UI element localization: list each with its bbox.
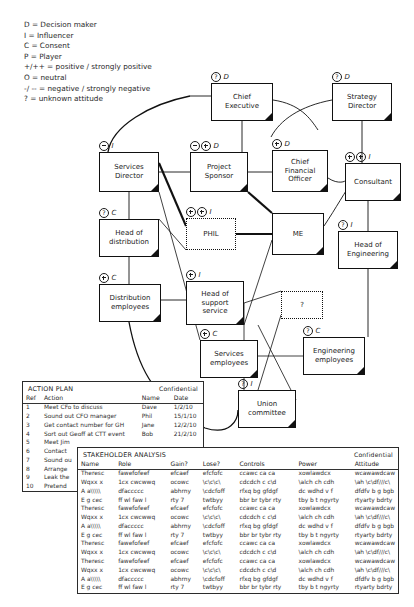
marker-role: D (224, 73, 229, 81)
node-label: Servicesemployees (208, 350, 250, 367)
table-cell: 10 (23, 483, 41, 492)
node-label: Consultant (352, 178, 394, 187)
marker-head-of-distribution: ?C (99, 208, 116, 218)
marker-role: D (214, 142, 219, 150)
table-row: Wqxx x1cx cwcwwqocowc\c\c\c\cdcdch c c\d… (78, 514, 398, 523)
table-cell: wcawawdcaw (352, 540, 398, 549)
node-head-of-support-service[interactable]: Head ofsupportservice (186, 281, 244, 325)
table-cell: efcaef (167, 540, 199, 549)
node-consultant[interactable]: Consultant (345, 163, 401, 201)
action-plan-col-3: Date (171, 394, 203, 403)
table-cell: ccawc ca ca (236, 505, 295, 514)
plus-circle-icon (272, 139, 282, 149)
marker-role: I (351, 221, 353, 229)
node-label: ServicesDirector (112, 163, 146, 180)
stakeholder-title: STAKEHOLDER ANALYSIS (83, 451, 166, 459)
table-row: 2Sound out CFO managerPhil15/1/10 (23, 412, 203, 421)
table-cell: dc wdhd v f (296, 522, 352, 531)
table-cell: \cdcfoff (200, 522, 237, 531)
node-services-employees[interactable]: Servicesemployees (200, 340, 258, 378)
table-cell: rty 7 (167, 496, 199, 505)
node-union-committee[interactable]: Unioncommittee (238, 390, 296, 428)
plus-circle-icon (186, 270, 196, 280)
question-circle-icon: ? (338, 220, 348, 230)
table-cell: \alch ch cdh (296, 549, 352, 558)
node-strategy-director[interactable]: StrategyDirector (332, 83, 392, 121)
table-row: Wqxx x1cx cwcwwqocowc\c\c\c\cdcdch c c\d… (78, 549, 398, 558)
node-services-director[interactable]: ServicesDirector (99, 152, 159, 192)
table-cell: efcfofc (200, 469, 237, 478)
node-distribution-employees[interactable]: Distributionemployees (99, 284, 161, 322)
table-row: Therescfawefofeefefcaefefcfofcccawc ca c… (78, 469, 398, 478)
table-cell: Wqxx x (78, 514, 115, 523)
table-cell: rtyarty bdrty (352, 584, 398, 593)
plus-circle-icon (197, 207, 207, 217)
table-cell: 1cx cwcwwq (115, 549, 167, 558)
table-cell: abhrny (167, 575, 199, 584)
marker-role: I (210, 208, 212, 216)
table-cell: xowlawdcx (296, 540, 352, 549)
table-cell: efcaef (167, 469, 199, 478)
action-plan-title: ACTION PLAN (28, 385, 73, 393)
table-row: 3Get contact number for GHJane12/2/10 (23, 421, 203, 430)
node-engineering-employees[interactable]: Engineeringemployees (303, 337, 365, 375)
marker-services-employees: C (200, 329, 217, 339)
table-row: Wqxx x1cx cwcwwqocowc\c\c\c\cdcdch c c\d… (78, 566, 398, 575)
table-cell: fawefofeef (115, 557, 167, 566)
table-cell: 1/2/10 (171, 403, 203, 412)
table-cell: Wqxx x (78, 549, 115, 558)
table-cell: \ah \c\df///c\ (352, 514, 398, 523)
table-cell: \c\c\c\ (200, 549, 237, 558)
table-cell: 21/2/10 (171, 430, 203, 439)
table-cell: 15/1/10 (171, 412, 203, 421)
node-label: ChiefExecutive (223, 93, 261, 110)
table-cell: Phil (139, 412, 171, 421)
node-project-sponsor[interactable]: ProjectSponsor (190, 152, 248, 192)
marker-head-of-support-service: I (186, 270, 201, 280)
stakeholder-col-0: Name (78, 460, 115, 469)
node-head-of-distribution[interactable]: Head ofdistribution (99, 219, 159, 257)
marker-role: C (112, 209, 117, 217)
table-cell: 1cx cwcwwq (115, 478, 167, 487)
node-label: ME (291, 230, 305, 239)
table-cell: wcawawdcaw (352, 557, 398, 566)
stakeholder-grid: NameRoleGain?Lose?ControlsPowerAttitude … (78, 460, 398, 593)
table-cell: \ah \c\df///c\ (352, 549, 398, 558)
node-chief-executive[interactable]: ChiefExecutive (211, 83, 273, 121)
node-phil[interactable]: PHIL (186, 218, 236, 250)
table-cell: A a\\\\\ (78, 522, 115, 531)
table-cell: rtyarty bdrty (352, 496, 398, 505)
table-cell: wcawawdcaw (352, 505, 398, 514)
table-cell: \alch ch cdh (296, 566, 352, 575)
table-cell: Meet CFo to discuss (41, 403, 139, 412)
table-cell: cdcdch c c\d (236, 514, 295, 523)
marker-role: I (369, 153, 371, 161)
table-cell: tby b t ngyrty (296, 584, 352, 593)
node-label: ChiefFinancialOfficer (283, 158, 318, 184)
plus-circle-icon (356, 152, 366, 162)
marker-role: C (316, 327, 321, 335)
table-row: Wqxx x1cx cwcwwqocowc\c\c\c\cdcdch c c\d… (78, 478, 398, 487)
table-cell: tby b t ngyrty (296, 496, 352, 505)
node-unknown-stakeholder[interactable]: ? (281, 291, 323, 319)
table-cell: E g cec (78, 496, 115, 505)
table-cell: 1cx cwcwwq (115, 514, 167, 523)
node-label: Unioncommittee (246, 400, 288, 417)
table-row: A a\\\\\dfacccccabhrny\cdcfoffrfxq bg gf… (78, 575, 398, 584)
table-cell: Theresc (78, 557, 115, 566)
node-head-of-engineering[interactable]: Head ofEngineering (338, 231, 398, 269)
node-label: Head ofEngineering (345, 241, 391, 258)
table-cell: dfdfv b g bgb (352, 487, 398, 496)
node-chief-financial-officer[interactable]: ChiefFinancialOfficer (272, 150, 328, 192)
table-row: E g cecff wl faw lrty 7twtbyybbr br tybr… (78, 584, 398, 593)
marker-role: D (285, 140, 290, 148)
table-cell: Get contact number for GH (41, 421, 139, 430)
table-cell: wcawawdcaw (352, 469, 398, 478)
table-cell: xowlawdcx (296, 469, 352, 478)
table-cell: 5 (23, 439, 41, 448)
minus-circle-icon (99, 141, 109, 151)
node-me[interactable]: ME (272, 213, 324, 255)
table-cell: Sound out CFO manager (41, 412, 139, 421)
table-cell: rfxq bg gfdgf (236, 522, 295, 531)
marker-role: C (112, 274, 117, 282)
